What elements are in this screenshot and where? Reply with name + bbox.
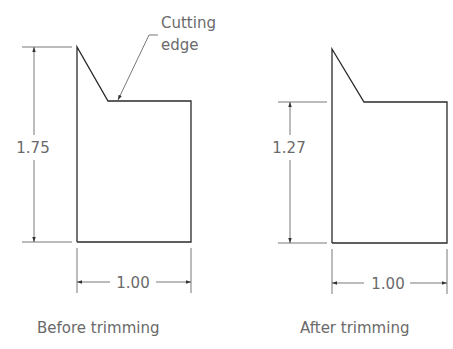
- annotation-line2: edge: [161, 36, 199, 54]
- annotation-line1: Cutting: [161, 14, 216, 32]
- cutting-edge-leader: [118, 35, 158, 100]
- part-outline-after: [332, 49, 447, 243]
- height-label-after: 1.27: [272, 139, 305, 157]
- width-label-before: 1.00: [116, 274, 149, 292]
- trimming-diagram: 1.75 1.00 Cutting edge Before trimming 1…: [0, 0, 453, 349]
- figure-before: 1.75 1.00 Cutting edge Before trimming: [16, 14, 216, 337]
- caption-before: Before trimming: [37, 319, 159, 337]
- height-label-before: 1.75: [16, 139, 49, 157]
- caption-after: After trimming: [300, 319, 409, 337]
- width-label-after: 1.00: [371, 275, 404, 293]
- part-outline-before: [77, 47, 191, 242]
- figure-after: 1.27 1.00 After trimming: [272, 49, 447, 337]
